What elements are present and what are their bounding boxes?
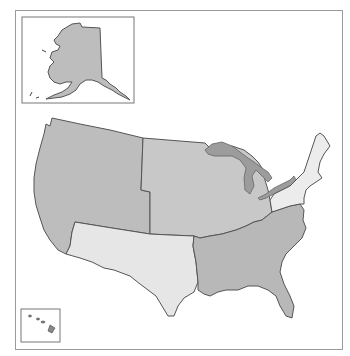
us-regions-map [0, 0, 350, 356]
aleutian-islands [30, 92, 39, 98]
region-southwest[interactable] [66, 222, 198, 316]
alaska-island [42, 50, 46, 52]
region-alaska[interactable] [46, 23, 130, 100]
region-northeast[interactable] [270, 133, 330, 212]
hawaii-inset-box [21, 309, 60, 342]
region-hawaii[interactable] [29, 315, 56, 333]
